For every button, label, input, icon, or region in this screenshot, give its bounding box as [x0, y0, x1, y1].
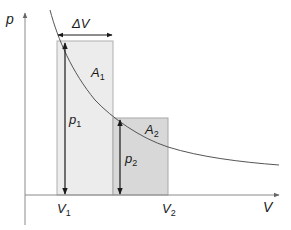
v2-tick-label: V2 — [162, 201, 176, 218]
area-a2-rect — [113, 118, 168, 195]
x-axis-label: V — [263, 199, 274, 215]
y-axis-label: p — [5, 11, 14, 27]
pv-diagram: p V ΔV A1 A2 p1 p2 V1 V2 — [0, 0, 291, 230]
delta-v-label: ΔV — [71, 16, 91, 31]
v1-tick-label: V1 — [57, 201, 71, 218]
